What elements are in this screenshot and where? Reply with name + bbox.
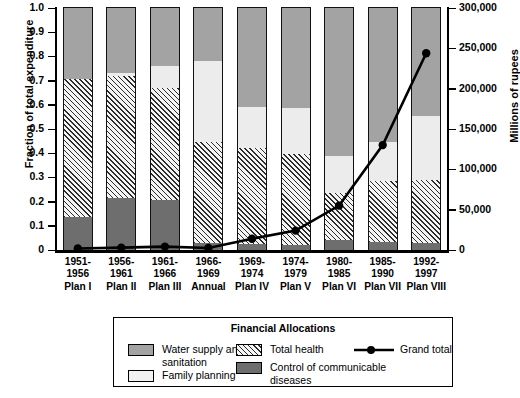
y-tick-left-9	[48, 32, 56, 34]
y-tick-right-5	[448, 48, 456, 50]
legend-title: Financial Allocations	[114, 322, 452, 334]
water-supply-swatch	[128, 344, 154, 356]
x-label-year-end: 1997	[400, 268, 452, 280]
y-tick-label-left-5: 0.5	[0, 123, 44, 133]
y-tick-right-4	[448, 88, 456, 90]
total-health-swatch	[236, 344, 262, 356]
y-tick-label-left-10: 1.0	[0, 2, 44, 12]
y-tick-right-0	[448, 250, 456, 252]
y-tick-label-left-2: 0.2	[0, 196, 44, 206]
chart-legend: Financial Allocations Water supply and s…	[113, 317, 453, 387]
y-tick-label-right-5: 250,000	[459, 42, 497, 52]
y-tick-left-10	[48, 8, 56, 10]
grand-total-point-6	[335, 201, 343, 209]
grand-total-point-8	[422, 49, 430, 57]
y-tick-label-right-6: 300,000	[459, 2, 497, 12]
x-axis-label-8: 1992-1997Plan VIII	[400, 256, 452, 293]
communicable-diseases-swatch	[236, 362, 262, 374]
y-tick-right-1	[448, 209, 456, 211]
grand-total-line-series	[56, 8, 448, 250]
y-tick-right-2	[448, 169, 456, 171]
grand-total-line-marker	[354, 344, 394, 356]
y-tick-label-left-6: 0.6	[0, 99, 44, 109]
y-tick-label-left-9: 0.9	[0, 26, 44, 36]
grand-total-point-5	[291, 226, 299, 234]
y-tick-left-1	[48, 225, 56, 227]
y-tick-label-right-1: 50,000	[459, 204, 491, 214]
y-tick-label-left-3: 0.3	[0, 171, 44, 181]
legend-label-comm-line1: Control of communicable	[270, 361, 386, 373]
y-tick-label-left-7: 0.7	[0, 75, 44, 85]
y-tick-label-left-4: 0.4	[0, 147, 44, 157]
y-tick-label-right-4: 200,000	[459, 83, 497, 93]
y-tick-left-0	[48, 250, 56, 252]
grand-total-point-2	[161, 242, 169, 250]
x-axis-line	[55, 250, 449, 253]
grand-total-point-0	[74, 244, 82, 252]
family-planning-swatch	[128, 370, 154, 382]
grand-total-markers	[74, 49, 431, 253]
plot-area	[56, 8, 448, 250]
y-tick-left-5	[48, 129, 56, 131]
grand-total-point-7	[379, 141, 387, 149]
y-tick-label-left-8: 0.8	[0, 50, 44, 60]
legend-label-comm-line2: diseases	[270, 374, 311, 386]
grand-total-polyline	[78, 53, 426, 248]
y-tick-label-left-1: 0.1	[0, 220, 44, 230]
x-label-year-start: 1992-	[400, 256, 452, 268]
grand-total-point-3	[204, 244, 212, 252]
y-tick-right-3	[448, 129, 456, 131]
x-label-plan: Plan VIII	[400, 281, 452, 293]
chart-container: Fraction of total expenditure Millions o…	[0, 0, 516, 306]
grand-total-point-1	[117, 243, 125, 251]
y-tick-left-4	[48, 153, 56, 155]
y-tick-left-3	[48, 177, 56, 179]
y-tick-left-8	[48, 56, 56, 58]
y-tick-label-right-2: 100,000	[459, 163, 497, 173]
y-tick-left-7	[48, 80, 56, 82]
y-tick-label-right-0: 0	[459, 244, 465, 254]
legend-label-water-line2: sanitation	[162, 356, 207, 368]
y-tick-right-6	[448, 8, 456, 10]
y-tick-label-right-3: 150,000	[459, 123, 497, 133]
y-tick-left-6	[48, 104, 56, 106]
grand-total-point-4	[248, 235, 256, 243]
y-tick-left-2	[48, 201, 56, 203]
legend-label-water-line1: Water supply and	[162, 343, 243, 355]
y-tick-label-left-0: 0	[0, 244, 44, 254]
legend-label-grand-total: Grand total	[400, 343, 480, 356]
y-axis-right-title: Millions of rupees	[508, 16, 520, 176]
